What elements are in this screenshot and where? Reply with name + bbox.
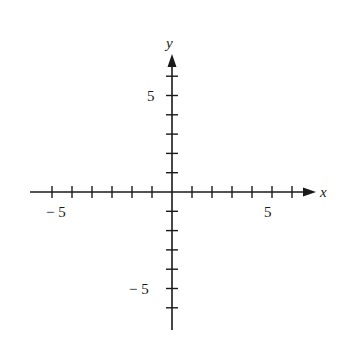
- x-tick-label-5: 5: [264, 204, 272, 220]
- x-tick-label-neg5: − 5: [46, 204, 66, 220]
- y-tick-label-neg5: − 5: [129, 281, 149, 297]
- coordinate-plane: x y − 5 5 5 − 5: [0, 0, 350, 338]
- x-axis-label: x: [319, 184, 327, 200]
- y-tick-label-5: 5: [147, 88, 155, 104]
- x-axis-arrow-icon: [303, 188, 316, 197]
- y-axis-arrow-icon: [168, 54, 177, 67]
- y-axis-label: y: [164, 35, 173, 51]
